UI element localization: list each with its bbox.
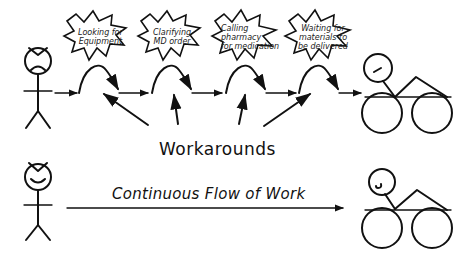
bubble-1-text: Looking for Equipment [78, 28, 123, 46]
bubble-2-text: Clarifying MD order [153, 28, 191, 46]
bubble-4-line-3: be delivered [298, 42, 348, 51]
bubble-2-line-1: Clarifying [153, 28, 191, 37]
bubble-3-text: Calling pharmacy for medication [221, 24, 279, 51]
bubble-3-line-3: for medication [221, 42, 279, 51]
bubble-4-line-1: Waiting for [298, 24, 348, 33]
workaround-pointers [104, 94, 310, 126]
bicycle-rider-bottom-icon [362, 169, 452, 248]
stick-figure-smile-icon [24, 163, 52, 240]
bubble-3-line-2: pharmacy [221, 33, 279, 42]
bubble-2-line-2: MD order [153, 37, 191, 46]
bubble-3-line-1: Calling [221, 24, 279, 33]
workarounds-caption: Workarounds [159, 139, 276, 159]
bubble-4-line-2: materials to [298, 33, 348, 42]
bicycle-rider-top-icon [362, 54, 452, 133]
continuous-flow-caption: Continuous Flow of Work [112, 185, 305, 203]
bubble-1-line-2: Equipment [78, 37, 123, 46]
bubble-1-line-1: Looking for [78, 28, 123, 37]
workaround-flow [55, 66, 361, 93]
bubble-4-text: Waiting for materials to be delivered [298, 24, 348, 51]
stick-figure-frown-icon [24, 48, 52, 128]
